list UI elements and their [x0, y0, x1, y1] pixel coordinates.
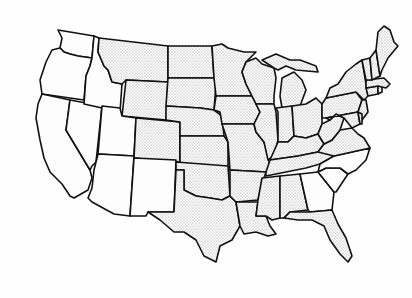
- state-NY[interactable]: New York: [326, 60, 368, 100]
- us-states-svg: Washington Oregon California Nevada Idah…: [0, 0, 412, 298]
- us-map: Contiguous United States Washington Oreg…: [0, 0, 412, 298]
- state-IA[interactable]: Iowa: [214, 96, 260, 124]
- state-FL[interactable]: Florida: [284, 210, 352, 262]
- state-SD[interactable]: South Dakota: [166, 78, 216, 110]
- state-ME[interactable]: Maine: [376, 26, 398, 76]
- state-IN[interactable]: Indiana: [276, 106, 294, 142]
- state-AZ[interactable]: Arizona: [88, 154, 134, 216]
- state-CO[interactable]: Colorado: [134, 118, 180, 162]
- state-WY[interactable]: Wyoming: [122, 80, 168, 120]
- state-NM[interactable]: New Mexico: [130, 158, 176, 216]
- state-ND[interactable]: North Dakota: [168, 46, 214, 78]
